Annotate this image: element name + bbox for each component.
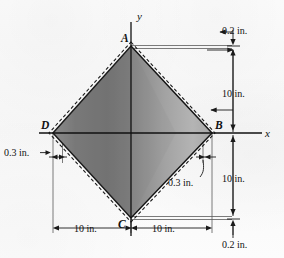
dimension-label-upper-half: 10 in. (222, 88, 245, 99)
vertex-label-A: A (120, 32, 129, 44)
vertex-label-D: D (40, 119, 50, 131)
y-axis-label: y (136, 10, 142, 22)
dimension-label-bottom-gap: 0.2 in. (222, 239, 247, 250)
vertex-label-B: B (214, 119, 223, 131)
dimension-label-right-half: 10 in. (152, 223, 175, 234)
dimension-label-lower-half: 10 in. (222, 173, 245, 184)
diagram-svg: y x A B C D 0.2 in. 10 in. 10 in. 0.2 in… (0, 0, 284, 258)
x-axis-label: x (264, 127, 270, 139)
vertex-label-C: C (118, 218, 126, 230)
dimension-label-top-gap: 0.2 in. (222, 25, 247, 36)
dimension-label-left-offset: 0.3 in. (4, 147, 29, 158)
dimension-label-right-offset: 0.3 in. (168, 177, 193, 188)
dimension-label-left-half: 10 in. (74, 223, 97, 234)
technical-diagram-figure: y x A B C D 0.2 in. 10 in. 10 in. 0.2 in… (0, 0, 284, 258)
shading-overlay (53, 46, 176, 218)
